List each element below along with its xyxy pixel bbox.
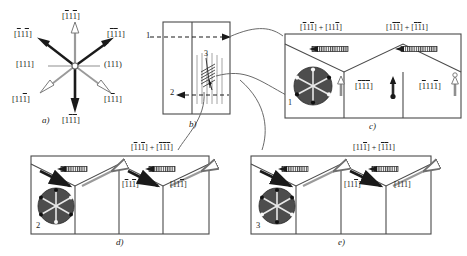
panel-d-cell-4-label: [111] — [170, 181, 187, 189]
panel-a-caption: a) — [42, 116, 50, 125]
panel-b-specimen — [150, 22, 231, 114]
panel-c-top-label-left: [111] + [111] — [300, 24, 342, 32]
panel-d-cell-1-disc-label: 2 — [36, 221, 40, 230]
panel-d-top-label: [111] + [111] — [131, 144, 173, 152]
panel-a-label-upper-right: [111] — [107, 30, 125, 39]
panel-b-caption: b) — [189, 120, 197, 129]
panel-b-marker-2: 2 — [170, 88, 174, 97]
panel-a-label-up: [111] — [62, 12, 80, 21]
panel-e-twin-band — [251, 156, 431, 234]
panel-a-label-lower-left: [111] — [12, 95, 30, 104]
panel-b-marker-1: 1 — [146, 31, 150, 40]
panel-c-top-label-right: [111] + [111] — [386, 24, 428, 32]
figure-canvas: [111] [111] [111] [111] (111) [111] [111… — [0, 0, 467, 256]
panel-c-cell-3-label: [1111] — [419, 82, 441, 91]
panel-c-cell-2-label: [111] — [355, 82, 373, 91]
panel-e-top-label: [111] + [111] — [353, 144, 395, 152]
panel-a-label-down: [111] — [62, 116, 80, 125]
panel-a-label-right: (111) — [104, 60, 122, 69]
pole-figure-disc-c — [294, 67, 332, 105]
panel-a-label-left: [111] — [16, 60, 34, 69]
panel-e-caption: e) — [338, 238, 345, 247]
pole-figure-disc-e — [259, 188, 295, 224]
pole-figure-disc-d — [38, 188, 74, 224]
panel-e-cell-3-label: [111] — [344, 181, 361, 189]
panel-c-cell-1-disc-label: 1 — [288, 99, 292, 107]
panel-b-marker-3: 3 — [204, 50, 208, 58]
panel-e-cell-4-label: [111] — [394, 181, 411, 189]
panel-e-cell-1-disc-label: 3 — [256, 221, 260, 230]
panel-d-cell-3-label: [111] — [122, 181, 139, 189]
panel-a-vector-star — [37, 22, 114, 113]
panel-c-twin-band — [285, 34, 461, 118]
panel-d-caption: d) — [116, 238, 124, 247]
panel-d-twin-band — [31, 156, 209, 234]
figure-lineart — [0, 0, 467, 256]
panel-a-label-lower-right: [111] — [104, 95, 122, 104]
panel-a-label-upper-left: [111] — [14, 30, 32, 39]
panel-c-caption: c) — [369, 122, 376, 131]
